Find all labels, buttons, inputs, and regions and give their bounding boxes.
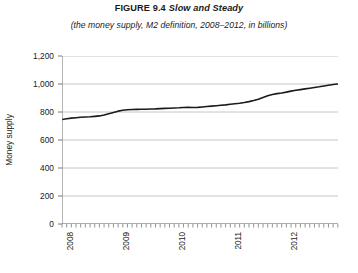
x-tick-label: 2009 <box>122 232 131 250</box>
x-tick-label: 2012 <box>290 232 299 250</box>
figure-container: FIGURE 9.4Slow and Steady (the money sup… <box>0 0 358 273</box>
x-tick-label: 2008 <box>66 232 75 250</box>
x-tick-label: 2010 <box>178 232 187 250</box>
x-tick-label: 2011 <box>234 232 243 250</box>
